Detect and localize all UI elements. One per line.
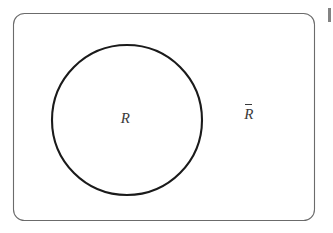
set-r-label-text: R bbox=[121, 110, 130, 126]
venn-diagram-figure: R R bbox=[0, 0, 333, 233]
set-r-label: R bbox=[0, 111, 251, 126]
overbar-group: R bbox=[244, 104, 253, 122]
overbar-line bbox=[245, 104, 252, 105]
complement-r-label: R bbox=[220, 104, 278, 122]
complement-r-label-text: R bbox=[244, 107, 253, 122]
scan-edge-artifact bbox=[328, 8, 331, 22]
